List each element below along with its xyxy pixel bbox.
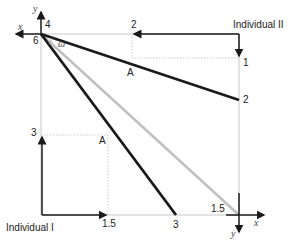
tick-label-right-2: 2 — [243, 95, 249, 105]
x-axis-label-top: x — [18, 22, 22, 32]
tick-label-4: 4 — [45, 20, 51, 30]
edgeworth-box-diagram: y x 4 6 ω 2 Individual II 1 2 A 3 A Indi… — [0, 0, 291, 247]
y-axis-label-bottom: y — [231, 229, 235, 239]
tick-label-corner-1-5: 1.5 — [211, 204, 225, 214]
individual-i-label: Individual I — [6, 223, 54, 233]
angle-label-omega: ω — [58, 39, 65, 49]
tick-label-bottom-3: 3 — [173, 220, 179, 230]
individual-ii-label: Individual II — [233, 20, 284, 30]
diagram-canvas — [0, 0, 291, 247]
tick-label-6: 6 — [33, 36, 39, 46]
point-a-upper: A — [127, 68, 134, 78]
point-a-lower: A — [99, 136, 106, 146]
tick-label-top-2: 2 — [131, 20, 137, 30]
tick-label-right-1: 1 — [243, 58, 249, 68]
dark-budget-line-i — [41, 34, 176, 215]
tick-label-left-3: 3 — [31, 128, 37, 138]
tick-label-bottom-1-5: 1.5 — [102, 219, 116, 229]
light-budget-line — [41, 34, 239, 215]
x-axis-label-bottom: x — [254, 218, 258, 228]
dark-budget-line-ii — [41, 34, 239, 100]
y-axis-label-top: y — [33, 4, 37, 14]
